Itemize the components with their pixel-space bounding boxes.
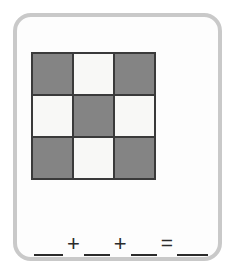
worksheet-card: + + = bbox=[13, 13, 222, 261]
answer-blank-1[interactable] bbox=[34, 236, 63, 256]
answer-blank-2[interactable] bbox=[84, 236, 110, 256]
three-by-three-grid-figure bbox=[31, 52, 156, 180]
grid-cell-r2c2[interactable] bbox=[74, 96, 113, 136]
equals-operator: = bbox=[160, 234, 174, 252]
grid-cell-r1c2[interactable] bbox=[74, 54, 113, 94]
grid-cell-r1c1[interactable] bbox=[33, 54, 72, 94]
answer-blank-4[interactable] bbox=[177, 236, 208, 256]
plus-operator-1: + bbox=[66, 235, 81, 253]
grid-cell-r1c3[interactable] bbox=[115, 54, 154, 94]
grid-cell-r3c3[interactable] bbox=[115, 138, 154, 178]
answer-blank-3[interactable] bbox=[131, 236, 157, 256]
grid-cell-r2c3[interactable] bbox=[115, 96, 154, 136]
grid-cell-r3c1[interactable] bbox=[33, 138, 72, 178]
equation-row: + + = bbox=[23, 222, 219, 256]
grid-cell-r3c2[interactable] bbox=[74, 138, 113, 178]
plus-operator-2: + bbox=[113, 235, 128, 253]
grid-cell-r2c1[interactable] bbox=[33, 96, 72, 136]
